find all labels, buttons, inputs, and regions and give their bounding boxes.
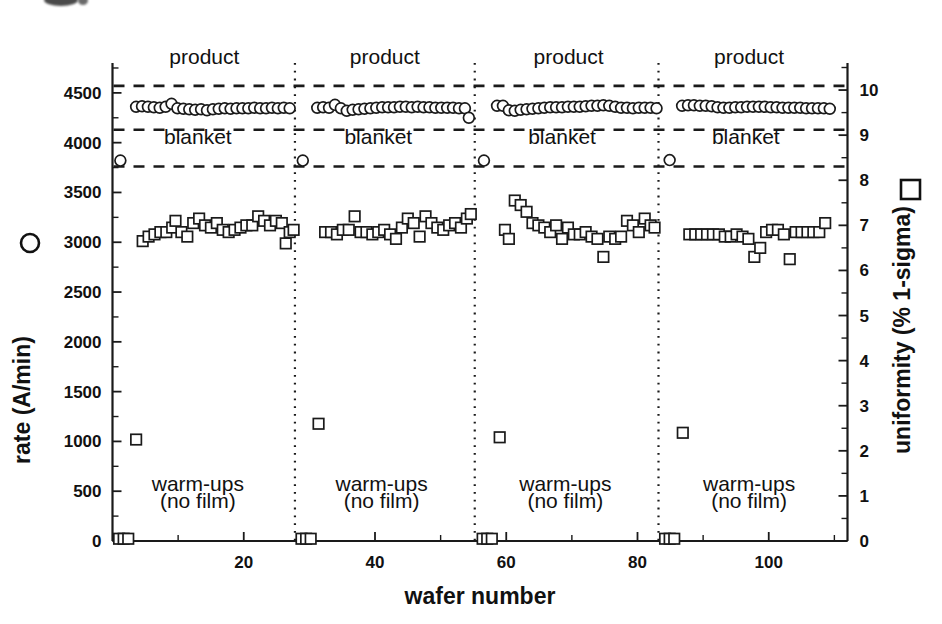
- rate-point: [479, 155, 490, 166]
- rate-point: [115, 155, 126, 166]
- uniformity-point: [281, 238, 292, 249]
- uniformity-point: [616, 231, 627, 242]
- uniformity-point: [123, 533, 134, 544]
- xtick-label-80: 80: [628, 553, 647, 572]
- uniformity-point: [408, 218, 419, 229]
- right-ytick-label-7: 7: [860, 216, 869, 235]
- uniformity-point: [743, 234, 754, 245]
- right-ytick-label-5: 5: [860, 307, 869, 326]
- annotation-product: product: [350, 45, 420, 68]
- uniformity-point: [182, 231, 193, 242]
- uniformity-point: [391, 234, 402, 245]
- right-ytick-label-4: 4: [860, 352, 870, 371]
- uniformity-point: [820, 218, 831, 229]
- rate-point: [463, 112, 474, 123]
- annotation--no-film-: (no film): [160, 489, 236, 512]
- right-ytick-label-0: 0: [860, 532, 869, 551]
- left-ytick-label-1000: 1000: [64, 432, 102, 451]
- annotation-product: product: [534, 45, 604, 68]
- legend-circle-icon: [21, 234, 39, 252]
- annotation-blanket: blanket: [344, 125, 412, 148]
- xtick-label-60: 60: [497, 553, 516, 572]
- xtick-label-20: 20: [234, 553, 253, 572]
- right-ytick-label-8: 8: [860, 171, 869, 190]
- uniformity-point: [755, 243, 766, 254]
- uniformity-point: [344, 225, 355, 236]
- left-ytick-label-1500: 1500: [64, 383, 102, 402]
- uniformity-point: [649, 222, 660, 233]
- right-ytick-label-1: 1: [860, 487, 869, 506]
- x-axis-title: wafer number: [404, 583, 556, 609]
- y-axis-title-right: uniformity (% 1-sigma): [889, 206, 915, 454]
- left-ytick-label-500: 500: [73, 482, 101, 501]
- left-ytick-label-2500: 2500: [64, 283, 102, 302]
- left-ytick-label-4000: 4000: [64, 134, 102, 153]
- chart-figure: 0500100015002000250030003500400045000123…: [0, 0, 942, 624]
- rate-point: [824, 103, 835, 114]
- annotation-blanket: blanket: [528, 125, 596, 148]
- right-ytick-label-3: 3: [860, 397, 869, 416]
- left-ytick-label-3500: 3500: [64, 183, 102, 202]
- annotation-product: product: [169, 45, 239, 68]
- left-ytick-label-4500: 4500: [64, 84, 102, 103]
- scatter-plot-svg: 0500100015002000250030003500400045000123…: [0, 0, 942, 624]
- uniformity-point: [634, 227, 645, 238]
- right-ytick-label-6: 6: [860, 261, 869, 280]
- uniformity-point: [466, 209, 477, 220]
- left-ytick-label-2000: 2000: [64, 333, 102, 352]
- right-ytick-label-2: 2: [860, 442, 869, 461]
- annotation-product: product: [714, 45, 784, 68]
- uniformity-point: [669, 533, 680, 544]
- uniformity-point: [779, 229, 790, 240]
- uniformity-point: [598, 252, 609, 262]
- xtick-label-100: 100: [755, 553, 783, 572]
- right-ytick-label-9: 9: [860, 126, 869, 145]
- uniformity-point: [504, 234, 515, 245]
- uniformity-point: [170, 216, 181, 227]
- uniformity-point: [349, 211, 360, 222]
- annotation--no-film-: (no film): [527, 489, 603, 512]
- uniformity-point: [551, 220, 562, 231]
- left-ytick-label-3000: 3000: [64, 233, 102, 252]
- uniformity-point: [592, 234, 603, 245]
- uniformity-point: [494, 432, 505, 443]
- uniformity-point: [131, 434, 142, 445]
- annotation--no-film-: (no film): [711, 489, 787, 512]
- uniformity-point: [288, 225, 299, 236]
- rate-point: [284, 103, 295, 114]
- rate-point: [297, 155, 308, 166]
- annotation-blanket: blanket: [712, 125, 780, 148]
- annotation--no-film-: (no film): [344, 489, 420, 512]
- uniformity-point: [487, 533, 498, 544]
- rate-point: [651, 103, 662, 114]
- uniformity-point: [678, 428, 689, 439]
- uniformity-point: [785, 254, 796, 265]
- annotation-blanket: blanket: [164, 125, 232, 148]
- uniformity-point: [414, 231, 425, 242]
- right-ytick-label-10: 10: [860, 81, 879, 100]
- legend-square-icon: [901, 180, 920, 199]
- uniformity-point: [521, 207, 532, 218]
- y-axis-title-left: rate (A/min): [9, 336, 35, 464]
- rate-point: [664, 155, 675, 166]
- uniformity-point: [305, 533, 316, 544]
- xtick-label-40: 40: [366, 553, 385, 572]
- left-ytick-label-0: 0: [92, 532, 101, 551]
- uniformity-point: [313, 419, 324, 430]
- uniformity-point: [557, 234, 568, 245]
